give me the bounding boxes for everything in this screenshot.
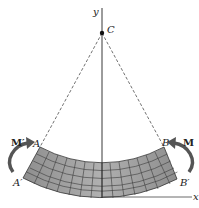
radius-line-a [40,33,102,147]
diagram-canvas: y C A B A′ B′ M′ M x [0,0,199,208]
moment-left-label: M′ [11,137,25,148]
point-b-label: B [161,137,169,148]
y-axis-label: y [92,6,99,17]
point-a-prime-label: A′ [12,177,23,188]
center-label: C [107,24,115,35]
center-point [100,31,104,35]
x-axis-label: x [193,191,199,202]
radius-line-b [102,33,164,147]
moment-right-label: M [183,137,194,148]
beam-body [23,147,177,198]
point-b-prime-label: B′ [179,177,190,188]
bending-diagram: y C A B A′ B′ M′ M x [0,0,199,208]
point-a-label: A [32,138,40,149]
